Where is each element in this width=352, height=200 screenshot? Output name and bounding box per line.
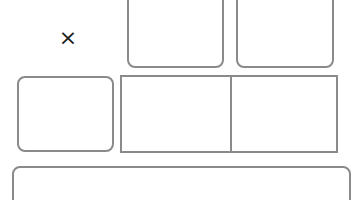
close-icon[interactable]: × <box>57 27 79 49</box>
top-middle-panel[interactable] <box>127 0 224 68</box>
top-right-panel[interactable] <box>236 0 334 68</box>
middle-left-panel[interactable] <box>17 76 114 152</box>
middle-right-panel[interactable] <box>230 75 338 153</box>
bottom-wide-panel[interactable] <box>12 166 351 200</box>
middle-center-panel[interactable] <box>120 75 232 153</box>
